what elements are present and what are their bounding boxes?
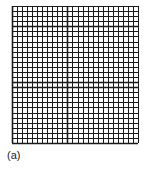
figure-label: (a): [7, 149, 20, 161]
grid-diagram: [0, 0, 147, 171]
